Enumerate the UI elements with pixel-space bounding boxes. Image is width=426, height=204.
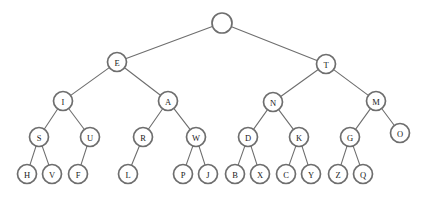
tree-node-C[interactable]: C — [277, 165, 296, 184]
tree-node-circle-E[interactable] — [108, 53, 127, 72]
tree-node-circle-R[interactable] — [134, 128, 153, 147]
tree-edge-T-M — [333, 69, 368, 95]
tree-node-circle-B[interactable] — [226, 165, 245, 184]
tree-node-J[interactable]: J — [199, 165, 218, 184]
tree-node-H[interactable]: H — [18, 165, 37, 184]
tree-edge-root-E — [126, 26, 213, 58]
tree-edge-N-D — [253, 109, 267, 129]
tree-node-circle-K[interactable] — [290, 128, 309, 147]
tree-edge-E-A — [124, 68, 161, 96]
tree-node-circle-Z[interactable] — [329, 165, 348, 184]
tree-node-circle-Y[interactable] — [302, 165, 321, 184]
tree-node-T[interactable]: T — [317, 55, 336, 74]
tree-node-E[interactable]: E — [108, 53, 127, 72]
tree-edge-D-B — [238, 146, 245, 166]
tree-node-circle-V[interactable] — [43, 165, 62, 184]
tree-edge-K-C — [289, 146, 296, 166]
tree-edge-I-S — [44, 109, 58, 130]
tree-edge-T-N — [280, 69, 318, 96]
tree-node-A[interactable]: A — [159, 92, 178, 111]
tree-edge-G-Z — [341, 146, 347, 166]
tree-node-M[interactable]: M — [367, 92, 386, 111]
tree-node-circle-J[interactable] — [199, 165, 218, 184]
tree-node-V[interactable]: V — [43, 165, 62, 184]
tree-node-circle-C[interactable] — [277, 165, 296, 184]
tree-node-circle-L[interactable] — [119, 165, 138, 184]
tree-node-circle-G[interactable] — [341, 128, 360, 147]
tree-edge-W-J — [199, 146, 205, 166]
tree-node-L[interactable]: L — [119, 165, 138, 184]
tree-node-circle-X[interactable] — [251, 165, 270, 184]
tree-edge-A-R — [148, 108, 163, 129]
tree-node-circle-Q[interactable] — [354, 165, 373, 184]
tree-node-K[interactable]: K — [290, 128, 309, 147]
tree-node-P[interactable]: P — [174, 165, 193, 184]
tree-node-circle-root[interactable] — [212, 13, 232, 33]
tree-edge-U-F — [81, 146, 87, 166]
tree-node-W[interactable]: W — [187, 128, 206, 147]
tree-node-circle-N[interactable] — [264, 93, 283, 112]
tree-node-S[interactable]: S — [30, 128, 49, 147]
tree-edge-S-H — [30, 146, 36, 166]
tree-node-Y[interactable]: Y — [302, 165, 321, 184]
tree-node-U[interactable]: U — [81, 128, 100, 147]
tree-edge-A-W — [174, 108, 191, 130]
tree-edge-D-X — [251, 146, 257, 166]
tree-node-circle-I[interactable] — [54, 92, 73, 111]
tree-edge-root-T — [231, 27, 318, 61]
node-layer: ETIANMSURWDKGOHVFLPJBXCYZQ — [18, 13, 410, 184]
tree-edge-M-G — [355, 108, 370, 129]
tree-node-root[interactable] — [212, 13, 232, 33]
tree-edge-G-Q — [353, 146, 360, 166]
tree-node-X[interactable]: X — [251, 165, 270, 184]
tree-node-R[interactable]: R — [134, 128, 153, 147]
tree-node-circle-S[interactable] — [30, 128, 49, 147]
tree-edge-R-L — [131, 145, 139, 165]
tree-node-G[interactable]: G — [341, 128, 360, 147]
tree-node-circle-W[interactable] — [187, 128, 206, 147]
tree-edge-W-P — [186, 146, 193, 166]
tree-edge-K-Y — [302, 146, 308, 166]
tree-node-circle-H[interactable] — [18, 165, 37, 184]
tree-node-Z[interactable]: Z — [329, 165, 348, 184]
tree-node-O[interactable]: O — [391, 124, 410, 143]
tree-node-circle-P[interactable] — [174, 165, 193, 184]
tree-node-B[interactable]: B — [226, 165, 245, 184]
tree-node-circle-U[interactable] — [81, 128, 100, 147]
tree-diagram-figure: ETIANMSURWDKGOHVFLPJBXCYZQ — [0, 0, 426, 204]
tree-node-circle-M[interactable] — [367, 92, 386, 111]
tree-node-circle-D[interactable] — [239, 128, 258, 147]
tree-edge-N-K — [278, 109, 293, 129]
tree-node-circle-F[interactable] — [69, 165, 88, 184]
tree-node-F[interactable]: F — [69, 165, 88, 184]
tree-edge-S-V — [42, 146, 49, 166]
tree-node-circle-T[interactable] — [317, 55, 336, 74]
tree-node-Q[interactable]: Q — [354, 165, 373, 184]
tree-node-circle-A[interactable] — [159, 92, 178, 111]
tree-edge-I-U — [68, 108, 84, 129]
tree-diagram-canvas: ETIANMSURWDKGOHVFLPJBXCYZQ — [0, 0, 426, 204]
tree-edge-M-O — [381, 108, 394, 125]
tree-node-N[interactable]: N — [264, 93, 283, 112]
tree-edge-E-I — [70, 67, 109, 95]
tree-node-circle-O[interactable] — [391, 124, 410, 143]
tree-node-I[interactable]: I — [54, 92, 73, 111]
tree-node-D[interactable]: D — [239, 128, 258, 147]
